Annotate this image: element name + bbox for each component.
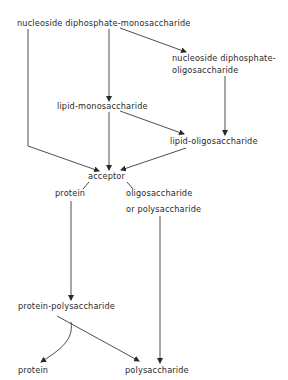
node-protein-polysaccharide: protein-polysaccharide: [18, 301, 115, 311]
pathway-diagram: nucleoside diphosphate-monosaccharide nu…: [0, 0, 288, 380]
arrow-lipidoligo-to-acceptor: [121, 148, 186, 170]
arrow-proteinpoly-to-polysaccharide: [57, 316, 139, 361]
node-lipid-oligosaccharide: lipid-oligosaccharide: [170, 136, 258, 146]
node-ndp-oligosaccharide-line2: oligosaccharide: [172, 65, 238, 75]
node-acceptor: acceptor: [88, 171, 125, 181]
arrow-lipidmono-to-lipidoligo: [120, 111, 184, 134]
node-protein-branch: protein: [55, 188, 85, 198]
node-lipid-monosaccharide: lipid-monosaccharide: [57, 101, 148, 111]
node-ndp-monosaccharide: nucleoside diphosphate-monosaccharide: [17, 18, 190, 28]
node-polysaccharide-out: polysaccharide: [125, 365, 189, 375]
node-ndp-oligosaccharide-line1: nucleoside diphosphate-: [172, 53, 276, 63]
node-oligo-branch-line1: oligosaccharide: [126, 188, 192, 198]
arrow-ndpmono-to-ndpoligo: [120, 28, 186, 52]
node-oligo-branch-line2: or polysaccharide: [126, 204, 201, 214]
arrow-proteinpoly-to-protein: [41, 322, 71, 362]
arrow-ndpmono-to-acceptor: [28, 29, 99, 171]
node-protein-out: protein: [18, 365, 48, 375]
